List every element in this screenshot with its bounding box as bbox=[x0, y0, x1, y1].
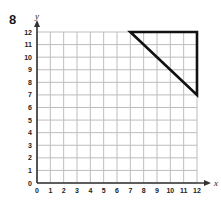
y-tick-label: 4 bbox=[28, 129, 32, 136]
y-tick-label: 2 bbox=[28, 154, 32, 161]
x-tick-label: 6 bbox=[115, 187, 119, 194]
y-tick-label: 1 bbox=[28, 167, 32, 174]
coordinate-grid: 01234567891011120123456789101112xy bbox=[0, 0, 221, 206]
x-tick-label: 2 bbox=[62, 187, 66, 194]
y-tick-label: 10 bbox=[24, 54, 32, 61]
x-tick-label: 12 bbox=[193, 187, 201, 194]
x-tick-label: 5 bbox=[102, 187, 106, 194]
y-tick-label: 11 bbox=[25, 41, 33, 48]
x-tick-label: 11 bbox=[180, 187, 188, 194]
x-tick-label: 8 bbox=[142, 187, 146, 194]
x-tick-label: 4 bbox=[88, 187, 92, 194]
x-axis-label: x bbox=[213, 178, 218, 188]
y-tick-label: 8 bbox=[28, 79, 32, 86]
y-axis-label: y bbox=[34, 11, 39, 21]
y-tick-label: 12 bbox=[24, 29, 32, 36]
x-tick-label: 1 bbox=[48, 187, 52, 194]
y-axis-arrow-icon bbox=[34, 20, 40, 27]
x-tick-label: 9 bbox=[155, 187, 159, 194]
x-tick-label: 7 bbox=[128, 187, 132, 194]
x-axis-arrow-icon bbox=[204, 180, 211, 186]
y-tick-label: 3 bbox=[28, 142, 32, 149]
y-tick-label: 9 bbox=[28, 66, 32, 73]
y-tick-label: 5 bbox=[28, 117, 32, 124]
triangle-shape bbox=[130, 32, 197, 95]
x-tick-label: 10 bbox=[166, 187, 174, 194]
y-tick-label: 0 bbox=[28, 180, 32, 187]
y-tick-label: 7 bbox=[28, 91, 32, 98]
x-tick-label: 3 bbox=[75, 187, 79, 194]
x-tick-label: 0 bbox=[35, 187, 39, 194]
y-tick-label: 6 bbox=[28, 104, 32, 111]
